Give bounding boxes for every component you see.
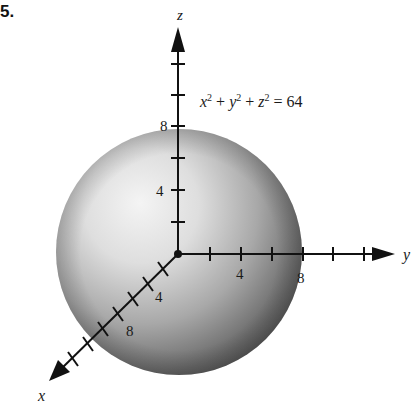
y-axis-arrowhead <box>372 247 395 261</box>
origin-point <box>174 250 182 258</box>
y-tick-label-4: 4 <box>236 266 244 282</box>
z-axis-label: z <box>176 7 183 23</box>
z-tick-label-4: 4 <box>156 183 164 199</box>
sphere-diagram: z y x 4 8 4 8 4 8 x2 + y2 + z2 = 64 <box>0 0 413 404</box>
x-tick-label-8: 8 <box>126 323 134 339</box>
x-axis-label: x <box>37 387 45 404</box>
z-tick-label-8: 8 <box>160 118 168 134</box>
x-tick-label-4: 4 <box>155 289 163 305</box>
y-tick-label-8: 8 <box>297 270 305 286</box>
sphere-equation: x2 + y2 + z2 = 64 <box>199 92 303 111</box>
y-axis-label: y <box>401 246 411 264</box>
z-axis-arrowhead <box>171 27 185 52</box>
